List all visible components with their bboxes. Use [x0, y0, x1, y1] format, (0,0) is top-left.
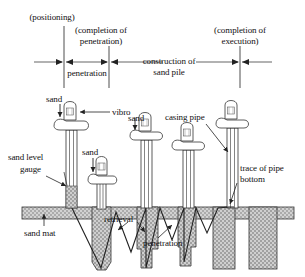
sand-column-4: [213, 207, 235, 269]
label-sand-level-gauge-line2: gauge: [20, 164, 41, 174]
machine-unit-4: [172, 123, 205, 209]
label-casing-pipe: casing pipe: [165, 112, 205, 122]
span-label-construction-line1: construction of: [128, 56, 210, 66]
casing-pipe-2: [97, 183, 106, 209]
label-trace-pipe-bottom-line2: bottom: [240, 174, 265, 184]
label-trace-pipe-bottom-line1: trace of pipe: [240, 163, 284, 173]
label-sand-middle: sand: [82, 147, 98, 157]
stage-label-execution-complete-line1: (completion of: [192, 25, 288, 35]
machine-unit-5: [216, 101, 249, 209]
span-label-penetration: penetration: [47, 68, 127, 78]
hopper-arm-5: [216, 118, 249, 128]
span-label-construction-line2: sand pile: [128, 67, 210, 77]
leader-sand-level-gauge: [46, 176, 66, 186]
hopper-arm-1: [54, 119, 89, 130]
label-retrieval: retrieval: [104, 214, 133, 224]
hopper-arm-2: [88, 174, 117, 184]
sand-column-5: [249, 207, 277, 269]
label-sand-right: sand: [128, 113, 144, 123]
label-sand-level-gauge-line1: sand level: [8, 152, 43, 162]
casing-pipe-4: [183, 150, 194, 208]
stage-label-positioning: (positioning): [16, 12, 88, 22]
label-penetration-lower: penetration: [143, 238, 182, 248]
sand-compaction-pile-diagram: (positioning) (completion of penetration…: [0, 0, 305, 277]
casing-pipe-3: [141, 140, 152, 208]
sand-level-gauge-marker: [66, 186, 77, 208]
hopper-arm-4: [172, 140, 205, 150]
machine-unit-2: [88, 157, 117, 210]
stage-label-execution-complete-line2: execution): [192, 36, 288, 46]
hopper-arm-3: [130, 130, 163, 140]
label-sand-left: sand: [46, 94, 62, 104]
stage-label-penetration-complete-line1: (completion of: [56, 25, 146, 35]
label-sand-mat: sand mat: [24, 228, 55, 238]
leader-penetration-lower: [158, 225, 172, 238]
stage-label-penetration-complete-line2: penetration): [56, 36, 146, 46]
